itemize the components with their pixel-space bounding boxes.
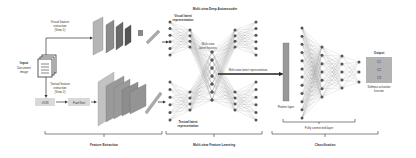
neuron: [321, 46, 324, 49]
connection: [235, 82, 256, 92]
connection: [190, 36, 212, 68]
neuron: [321, 87, 324, 90]
arrowhead: [94, 101, 97, 104]
neuron: [234, 46, 237, 49]
neuron: [301, 117, 304, 120]
connection: [170, 29, 190, 47]
connection: [190, 68, 212, 92]
connection: [235, 22, 256, 41]
neuron: [255, 47, 258, 50]
neuron: [189, 91, 192, 94]
connection: [342, 80, 359, 82]
neuron: [301, 67, 304, 70]
connection: [190, 60, 212, 98]
neuron: [234, 97, 237, 100]
connection: [170, 82, 190, 92]
neuron: [169, 96, 172, 99]
brace-fc: [283, 119, 355, 124]
architecture-diagram: Input Document image Visual feature extr…: [0, 0, 416, 158]
neuron: [341, 55, 344, 58]
neuron: [301, 59, 304, 62]
neuron: [341, 79, 344, 82]
connection: [235, 97, 256, 110]
connection: [342, 62, 359, 88]
neuron: [169, 119, 172, 122]
neuron: [301, 51, 304, 54]
neuron: [211, 51, 214, 54]
neuron: [234, 103, 237, 106]
connection: [322, 56, 342, 89]
fasttext-label: FastText: [73, 101, 85, 105]
connection: [302, 47, 322, 102]
neuron: [301, 43, 304, 46]
connection: [342, 62, 359, 64]
connection: [235, 82, 256, 104]
output-class: C3: [377, 76, 381, 80]
neuron: [211, 59, 214, 62]
connection: [322, 80, 342, 88]
neuron: [169, 111, 172, 114]
connection: [212, 30, 235, 92]
connection: [190, 60, 212, 110]
connection: [235, 35, 256, 47]
connection: [235, 90, 256, 110]
connection: [212, 100, 235, 104]
connection: [235, 29, 256, 47]
neuron: [255, 54, 258, 57]
neuron: [255, 96, 258, 99]
connection: [170, 30, 190, 48]
connection: [322, 55, 342, 88]
neuron: [169, 27, 172, 30]
neuron: [189, 46, 192, 49]
connection: [235, 29, 256, 42]
connection: [170, 22, 190, 47]
neuron: [321, 62, 324, 65]
connection: [170, 97, 190, 98]
neuron: [301, 92, 304, 95]
connection: [170, 36, 190, 55]
connection: [212, 68, 235, 98]
neuron: [358, 81, 361, 84]
connection: [235, 35, 256, 41]
arrowhead: [65, 101, 68, 104]
connection: [342, 72, 359, 88]
connection: [170, 105, 190, 110]
connection: [235, 30, 256, 55]
neuron: [255, 88, 258, 91]
connection: [170, 29, 190, 42]
connection: [322, 56, 342, 64]
neuron: [169, 81, 172, 84]
softmax-label-2: function: [374, 89, 384, 93]
connection: [170, 92, 190, 97]
connection: [302, 44, 322, 47]
visual-branch-arrow: [46, 38, 90, 55]
arrowhead: [45, 95, 48, 98]
connection: [235, 36, 256, 42]
neuron: [211, 67, 214, 70]
output-class: C2: [377, 68, 381, 72]
output-class: C1: [377, 60, 381, 64]
neuron: [169, 47, 172, 50]
neuron: [234, 109, 237, 112]
neuron: [321, 71, 324, 74]
neuron: [234, 29, 237, 32]
connection: [212, 30, 235, 100]
connection: [170, 30, 190, 55]
connection: [322, 64, 342, 80]
neuron: [301, 100, 304, 103]
neuron: [211, 99, 214, 102]
neuron: [189, 109, 192, 112]
connection: [342, 62, 359, 72]
connection: [212, 92, 235, 100]
neuron: [321, 54, 324, 57]
neuron: [358, 71, 361, 74]
connection: [342, 72, 359, 82]
neuron: [255, 103, 258, 106]
neuron: [211, 83, 214, 86]
neuron: [358, 61, 361, 64]
connection: [322, 88, 342, 97]
connection: [190, 68, 212, 110]
connection: [190, 76, 212, 104]
connection: [342, 72, 359, 80]
fully-connected-network: [301, 27, 361, 120]
